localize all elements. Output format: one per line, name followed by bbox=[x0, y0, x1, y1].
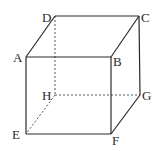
cube-diagram: ABCDEFGH bbox=[0, 0, 158, 151]
vertex-label-f: F bbox=[112, 133, 119, 148]
vertex-label-d: D bbox=[42, 10, 51, 25]
vertex-label-g: G bbox=[142, 88, 151, 103]
edge-cg bbox=[139, 16, 140, 95]
vertex-label-h: H bbox=[42, 88, 51, 103]
vertex-label-c: C bbox=[141, 10, 150, 25]
vertex-label-a: A bbox=[13, 50, 23, 65]
vertex-label-e: E bbox=[12, 127, 20, 142]
edge-bc bbox=[111, 16, 139, 57]
cube-edges bbox=[26, 16, 140, 134]
edge-fg bbox=[111, 95, 140, 134]
vertex-labels: ABCDEFGH bbox=[12, 10, 151, 148]
vertex-label-b: B bbox=[113, 54, 122, 69]
